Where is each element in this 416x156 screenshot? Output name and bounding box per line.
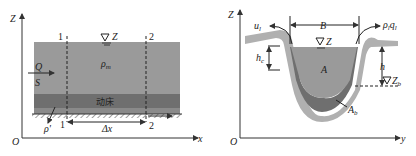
origin-label: O [230, 136, 237, 147]
lateral-inflow-left-label: ul [254, 20, 261, 33]
z-axis-label: Z [10, 13, 16, 24]
ab-label: Ab [347, 104, 358, 117]
dx-label: Δx [101, 123, 113, 134]
right-diagram: Z y O ul ρlql B Z A hc h Zb Ab [228, 9, 406, 147]
water-level-icon [101, 34, 109, 41]
section-2-bottom-label: 2 [149, 120, 154, 131]
x-axis-label: x [197, 133, 203, 144]
bed-label: 动床 [96, 96, 114, 107]
z-axis-label: Z [228, 9, 234, 20]
h-label: h [380, 61, 385, 72]
section-1-top-label: 1 [58, 31, 63, 42]
zb-label: Zb [392, 75, 402, 88]
flow-label: Q [35, 61, 43, 72]
lower-layer [34, 108, 180, 114]
area-label: A [320, 64, 328, 75]
origin-label: O [12, 136, 19, 147]
water-level-label: Z [326, 36, 332, 47]
width-label: B [320, 20, 326, 31]
bed-level-icon [383, 77, 391, 84]
lateral-inflow-right-label: ρlql [382, 19, 397, 32]
water-level-icon [316, 38, 324, 45]
hc-label: hc [256, 52, 265, 65]
water-level-label: Z [112, 31, 118, 42]
left-diagram: Z x O 1 2 1 2 Z Q S ρm 动床 ρ' Δx [10, 13, 203, 147]
sediment-label: S [35, 77, 40, 88]
section-2-top-label: 2 [149, 31, 154, 42]
bed-density-label: ρ' [43, 123, 52, 134]
diagram-canvas: Z x O 1 2 1 2 Z Q S ρm 动床 ρ' Δx [0, 0, 416, 156]
section-1-bottom-label: 1 [60, 119, 65, 130]
y-axis-label: y [400, 133, 406, 144]
